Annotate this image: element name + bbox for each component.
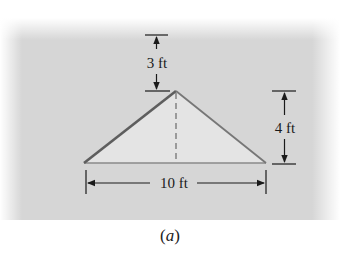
dimension-top-gap: 3 ft <box>145 35 170 91</box>
triangle-diagram: 3 ft 4 ft 10 ft <box>0 0 340 260</box>
label-4ft: 4 ft <box>275 120 296 136</box>
caption-letter: a <box>166 226 175 245</box>
label-3ft: 3 ft <box>147 55 168 71</box>
figure-caption: (a) <box>0 226 340 246</box>
caption-paren-close: ) <box>174 226 180 245</box>
label-10ft: 10 ft <box>160 175 189 191</box>
dimension-base: 10 ft <box>86 170 266 194</box>
triangle <box>84 91 266 163</box>
dimension-height: 4 ft <box>272 91 296 164</box>
